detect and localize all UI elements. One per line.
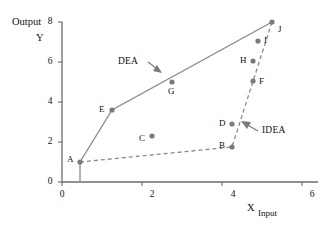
point-label-C: C	[139, 134, 145, 143]
point-label-H: H	[240, 56, 247, 65]
idea-frontier-line	[80, 22, 272, 162]
chart-plot-area	[0, 0, 332, 235]
chart-container: Output Y X Input 0 2 4 6 8 0 2 4 6 A B C…	[0, 0, 332, 235]
y-tick-label-6: 6	[44, 57, 56, 67]
y-tick-label-8: 8	[44, 17, 56, 27]
x-axis-title-sub: Input	[258, 209, 277, 218]
y-tick-label-4: 4	[44, 97, 56, 107]
y-axis-title-line2: Y	[36, 33, 44, 44]
annotation-idea-label: IDEA	[262, 126, 286, 136]
point-label-D: D	[219, 119, 226, 128]
data-point-J	[269, 19, 274, 24]
x-tick-label-2: 2	[146, 190, 158, 200]
point-label-F: F	[259, 77, 264, 86]
data-point-A	[77, 159, 82, 164]
data-point-I	[255, 38, 260, 43]
data-point-H	[250, 58, 255, 63]
data-point-G	[169, 79, 174, 84]
point-label-B: B	[219, 141, 225, 150]
annotation-dea-label: DEA	[118, 57, 138, 67]
x-tick-label-4: 4	[227, 190, 239, 200]
dea-frontier-line	[80, 22, 272, 162]
idea-annotation-arrow	[241, 121, 258, 131]
point-label-G: G	[168, 87, 175, 96]
dea-annotation-arrow	[148, 62, 162, 73]
point-label-A: A	[67, 155, 74, 164]
data-point-E	[109, 107, 114, 112]
point-label-E: E	[99, 105, 105, 114]
y-axis-title-line1: Output	[12, 17, 41, 28]
x-axis-title-main: X	[247, 203, 255, 214]
x-tick-label-6: 6	[306, 190, 318, 200]
data-point-B	[229, 144, 234, 149]
data-point-C	[149, 133, 154, 138]
y-tick-label-0: 0	[44, 177, 56, 187]
y-tick-label-2: 2	[44, 137, 56, 147]
data-point-F	[250, 78, 255, 83]
data-point-D	[229, 121, 234, 126]
x-tick-label-0: 0	[56, 190, 68, 200]
point-label-I: I	[264, 36, 267, 45]
point-label-J: J	[278, 25, 282, 34]
data-point-markers	[77, 19, 274, 164]
